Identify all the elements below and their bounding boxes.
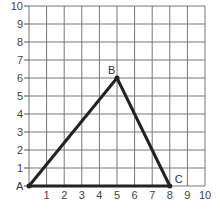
y-tick-label: 9 <box>17 18 23 30</box>
y-tick-label: 6 <box>17 72 23 84</box>
vertex-c <box>167 184 172 189</box>
x-tick-label: 7 <box>149 189 155 201</box>
x-tick-label: 9 <box>184 189 190 201</box>
vertex-label-b: B <box>108 64 115 76</box>
vertex-a <box>27 184 32 189</box>
x-axis-tick-labels: 12345678910 <box>44 189 212 201</box>
y-tick-label: 2 <box>17 144 23 156</box>
x-tick-label: 3 <box>79 189 85 201</box>
y-axis-tick-labels: 12345678910 <box>11 0 23 174</box>
x-tick-label: 8 <box>167 189 173 201</box>
vertex-label-c: C <box>175 173 183 185</box>
coordinate-grid-diagram: 12345678910 12345678910 ABC <box>0 0 220 209</box>
x-tick-label: 1 <box>44 189 50 201</box>
y-tick-label: 8 <box>17 36 23 48</box>
y-tick-label: 10 <box>11 0 23 12</box>
x-tick-label: 5 <box>114 189 120 201</box>
x-tick-label: 10 <box>199 189 211 201</box>
vertex-b <box>115 76 120 81</box>
x-tick-label: 4 <box>96 189 102 201</box>
y-tick-label: 4 <box>17 108 23 120</box>
y-tick-label: 3 <box>17 126 23 138</box>
y-tick-label: 5 <box>17 90 23 102</box>
x-tick-label: 6 <box>132 189 138 201</box>
x-tick-label: 2 <box>61 189 67 201</box>
vertex-label-a: A <box>16 180 24 192</box>
y-tick-label: 7 <box>17 54 23 66</box>
y-tick-label: 1 <box>17 162 23 174</box>
